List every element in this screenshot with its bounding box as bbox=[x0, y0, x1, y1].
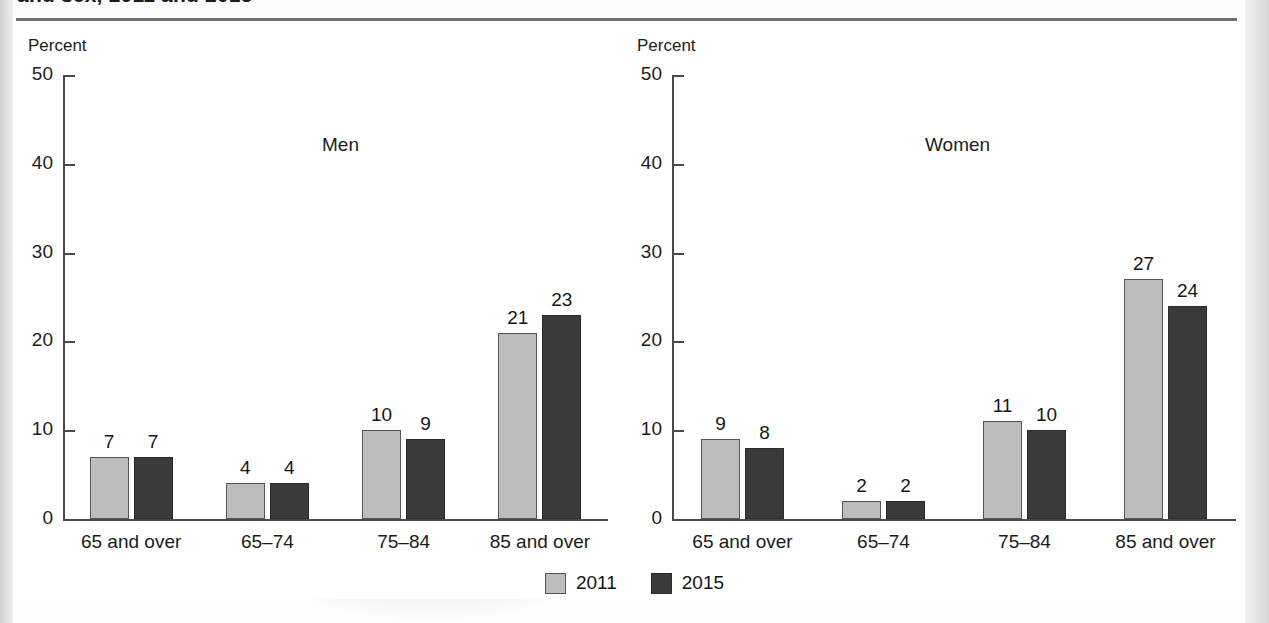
bar-value-label: 8 bbox=[733, 422, 796, 444]
y-axis-tick bbox=[674, 519, 684, 521]
bar-value-label: 10 bbox=[1015, 404, 1078, 426]
bar-value-label: 24 bbox=[1156, 280, 1219, 302]
legend-item-2011[interactable]: 2011 bbox=[545, 572, 617, 594]
title-divider-rule bbox=[16, 18, 1237, 21]
y-axis-tick-label: 20 bbox=[7, 329, 53, 351]
bar-value-label: 4 bbox=[258, 457, 321, 479]
legend-swatch-2011 bbox=[545, 573, 566, 594]
legend-swatch-2015 bbox=[651, 573, 672, 594]
bar-value-label: 2 bbox=[874, 475, 937, 497]
page-edge-right bbox=[1245, 0, 1269, 623]
bar-women-s2015-3 bbox=[1168, 306, 1207, 519]
x-axis-line bbox=[63, 519, 608, 521]
y-axis-tick-label: 50 bbox=[616, 63, 662, 85]
bar-women-s2015-1 bbox=[886, 501, 925, 519]
chart-legend: 20112015 bbox=[0, 572, 1269, 594]
bar-women-s2011-3 bbox=[1124, 279, 1163, 519]
y-axis-line bbox=[672, 75, 674, 521]
y-axis-tick-label: 10 bbox=[7, 418, 53, 440]
y-axis-tick bbox=[65, 164, 75, 166]
panel-title-women: Women bbox=[925, 134, 990, 156]
bar-value-label: 7 bbox=[122, 431, 185, 453]
bar-men-s2015-1 bbox=[270, 483, 309, 519]
bar-women-s2015-0 bbox=[745, 448, 784, 519]
bar-men-s2011-2 bbox=[362, 430, 401, 519]
x-axis-category-label: 85 and over bbox=[460, 531, 620, 553]
y-axis-tick bbox=[674, 75, 684, 77]
legend-label-2015: 2015 bbox=[682, 572, 724, 594]
y-axis-tick-label: 40 bbox=[7, 152, 53, 174]
page-edge-left bbox=[0, 0, 13, 623]
y-axis-tick bbox=[674, 430, 684, 432]
y-axis-unit-label: Percent bbox=[28, 36, 87, 56]
y-axis-line bbox=[63, 75, 65, 521]
x-axis-category-label: 65–74 bbox=[804, 531, 964, 553]
bar-men-s2015-2 bbox=[406, 439, 445, 519]
y-axis-tick-label: 30 bbox=[616, 241, 662, 263]
bar-value-label: 23 bbox=[530, 289, 593, 311]
bar-value-label: 9 bbox=[394, 413, 457, 435]
bar-women-s2015-2 bbox=[1027, 430, 1066, 519]
y-axis-tick bbox=[674, 253, 684, 255]
bar-women-s2011-2 bbox=[983, 421, 1022, 519]
y-axis-tick bbox=[65, 253, 75, 255]
y-axis-tick-label: 40 bbox=[616, 152, 662, 174]
y-axis-tick-label: 50 bbox=[7, 63, 53, 85]
x-axis-category-label: 75–84 bbox=[945, 531, 1105, 553]
y-axis-tick bbox=[674, 164, 684, 166]
bar-men-s2015-3 bbox=[542, 315, 581, 519]
y-axis-tick bbox=[65, 430, 75, 432]
legend-item-2015[interactable]: 2015 bbox=[651, 572, 724, 594]
y-axis-tick bbox=[65, 519, 75, 521]
bar-men-s2015-0 bbox=[134, 457, 173, 519]
y-axis-tick bbox=[65, 75, 75, 77]
y-axis-tick-label: 20 bbox=[616, 329, 662, 351]
y-axis-tick bbox=[65, 341, 75, 343]
y-axis-tick-label: 10 bbox=[616, 418, 662, 440]
y-axis-tick-label: 0 bbox=[616, 507, 662, 529]
y-axis-unit-label: Percent bbox=[637, 36, 696, 56]
bar-men-s2011-0 bbox=[90, 457, 129, 519]
x-axis-line bbox=[672, 519, 1236, 521]
bar-women-s2011-1 bbox=[842, 501, 881, 519]
bar-men-s2011-3 bbox=[498, 333, 537, 519]
y-axis-tick-label: 0 bbox=[7, 507, 53, 529]
x-axis-category-label: 85 and over bbox=[1086, 531, 1246, 553]
figure-title-text: and sex, 2011 and 2015 bbox=[17, 0, 253, 7]
bar-value-label: 27 bbox=[1112, 253, 1175, 275]
panel-title-men: Men bbox=[322, 134, 359, 156]
y-axis-tick-label: 30 bbox=[7, 241, 53, 263]
x-axis-category-label: 65 and over bbox=[663, 531, 823, 553]
figure-title-clipped: and sex, 2011 and 2015 bbox=[13, 0, 1245, 15]
bar-women-s2011-0 bbox=[701, 439, 740, 519]
y-axis-tick bbox=[674, 341, 684, 343]
legend-label-2011: 2011 bbox=[576, 572, 617, 594]
bar-men-s2011-1 bbox=[226, 483, 265, 519]
